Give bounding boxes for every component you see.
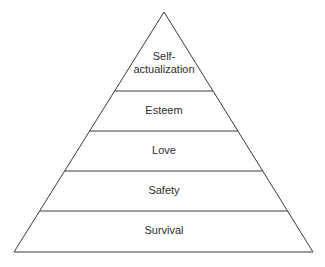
level-self-actualization: Self-actualization [133, 50, 194, 75]
level-label-self-actualization-line1: Self- [153, 50, 176, 62]
pyramid-outline [14, 12, 313, 252]
level-love: Love [152, 144, 176, 156]
level-survival: Survival [144, 224, 183, 236]
level-label-safety: Safety [148, 184, 180, 196]
level-label-esteem: Esteem [145, 104, 182, 116]
hierarchy-pyramid: Self-actualizationEsteemLoveSafetySurviv… [0, 0, 325, 267]
level-esteem: Esteem [145, 104, 182, 116]
level-label-self-actualization-line2: actualization [133, 63, 194, 75]
level-labels: Self-actualizationEsteemLoveSafetySurviv… [133, 50, 194, 236]
level-label-survival: Survival [144, 224, 183, 236]
level-safety: Safety [148, 184, 180, 196]
level-label-love: Love [152, 144, 176, 156]
